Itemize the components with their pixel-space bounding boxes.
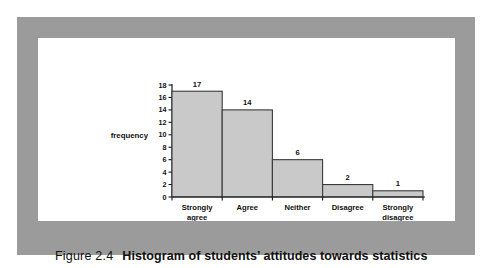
figure-number: Figure 2.4: [55, 249, 113, 263]
y-tick-label: 2: [163, 180, 167, 189]
figure-page: 0246810121416181714621StronglyagreeAgree…: [0, 0, 493, 268]
y-tick-label: 18: [159, 81, 167, 90]
bar-value-label: 6: [295, 148, 299, 157]
y-tick-label: 8: [163, 143, 167, 152]
histogram-chart: 0246810121416181714621StronglyagreeAgree…: [38, 38, 455, 221]
chart-plate: 0246810121416181714621StronglyagreeAgree…: [38, 38, 455, 221]
bar-value-label: 2: [346, 173, 350, 182]
bar-value-label: 14: [243, 98, 252, 107]
histogram-bar: [222, 110, 272, 197]
y-tick-label: 0: [163, 193, 167, 202]
y-tick-label: 12: [159, 118, 167, 127]
figure-title: Histogram of students’ attitudes towards…: [122, 249, 427, 263]
figure-caption: Figure 2.4Histogram of students’ attitud…: [55, 245, 475, 267]
y-tick-label: 16: [159, 93, 167, 102]
bar-value-label: 1: [396, 179, 401, 188]
histogram-bar: [373, 191, 423, 197]
y-tick-label: 14: [159, 105, 167, 114]
x-category-label: Neither: [284, 203, 310, 212]
y-tick-label: 6: [163, 155, 167, 164]
histogram-bar: [323, 185, 373, 197]
histogram-svg: 0246810121416181714621StronglyagreeAgree…: [38, 38, 455, 221]
x-category-label: Disagree: [332, 203, 364, 212]
x-category-label: Strongly: [182, 203, 214, 212]
histogram-bar: [272, 160, 322, 197]
histogram-bar: [172, 91, 222, 197]
x-category-label: agree: [187, 213, 207, 221]
y-tick-label: 4: [163, 168, 167, 177]
y-tick-label: 10: [159, 130, 167, 139]
x-category-label: disagree: [382, 213, 413, 221]
x-category-label: Strongly: [382, 203, 414, 212]
y-axis-title: frequency: [111, 131, 149, 140]
figure-frame: 0246810121416181714621StronglyagreeAgree…: [17, 17, 475, 255]
x-category-label: Agree: [237, 203, 259, 212]
bar-value-label: 17: [193, 80, 201, 89]
